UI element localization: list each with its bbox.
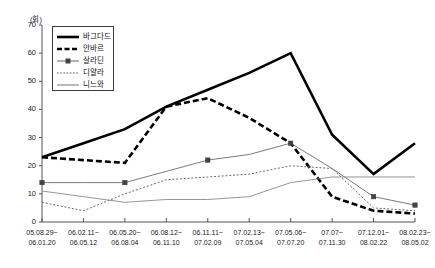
x-tick-9: 08.02.23~08.05.02	[387, 228, 435, 247]
series-2	[40, 141, 417, 207]
y-tick-30: 30	[14, 133, 36, 142]
legend-swatch-thick-solid-icon	[56, 32, 80, 42]
legend-label-diyala: 디얄라	[83, 68, 104, 78]
legend-item-diyala: 디얄라	[56, 67, 110, 79]
legend-label-saladin: 살라딘	[83, 56, 104, 66]
legend-label-nineveh: 니느와	[83, 80, 104, 90]
series-4	[42, 177, 415, 202]
series-3	[42, 166, 415, 211]
series-1	[42, 98, 415, 213]
y-tick-60: 60	[14, 48, 36, 57]
legend-swatch-dotted-icon	[56, 68, 80, 78]
legend-swatch-thick-dashed-icon	[56, 44, 80, 54]
y-tick-40: 40	[14, 104, 36, 113]
y-tick-10: 10	[14, 189, 36, 198]
y-tick-20: 20	[14, 161, 36, 170]
y-tick-50: 50	[14, 76, 36, 85]
legend-item-baghdad: 바그다드	[56, 31, 110, 43]
legend-item-nineveh: 니느와	[56, 79, 110, 91]
legend-swatch-square-marker-icon	[56, 56, 80, 66]
y-tick-70: 70	[14, 20, 36, 29]
legend-swatch-thin-solid-icon	[56, 80, 80, 90]
legend-label-baghdad: 바그다드	[83, 32, 111, 42]
chart-legend: 바그다드 안바르 살라딘 디얄라	[52, 26, 114, 91]
legend-item-anbar: 안바르	[56, 43, 110, 55]
y-tick-0: 0	[14, 217, 36, 226]
legend-item-saladin: 살라딘	[56, 55, 110, 67]
legend-label-anbar: 안바르	[83, 44, 104, 54]
